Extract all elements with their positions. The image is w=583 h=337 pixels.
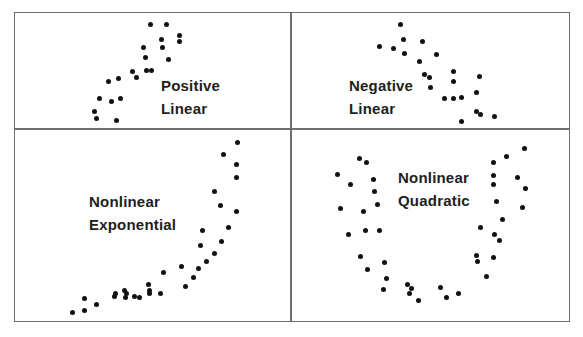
data-point bbox=[338, 206, 343, 211]
data-point bbox=[357, 156, 362, 161]
data-point bbox=[515, 175, 520, 180]
data-point bbox=[365, 267, 370, 272]
data-point bbox=[497, 238, 502, 243]
label-positive-linear: Positive Linear bbox=[161, 74, 220, 120]
label-line-2: Quadratic bbox=[398, 189, 470, 212]
data-point bbox=[346, 232, 351, 237]
data-point bbox=[371, 177, 376, 182]
label-line-1: Negative bbox=[349, 74, 413, 97]
data-point bbox=[456, 291, 461, 296]
data-point bbox=[348, 182, 353, 187]
data-point bbox=[475, 259, 480, 264]
label-negative-linear: Negative Linear bbox=[349, 74, 413, 120]
label-line-1: Nonlinear bbox=[398, 166, 470, 189]
data-point bbox=[361, 209, 366, 214]
label-line-2: Linear bbox=[349, 97, 413, 120]
label-nonlinear-exponential: Nonlinear Exponential bbox=[89, 190, 176, 236]
data-point bbox=[504, 154, 509, 159]
data-point bbox=[384, 276, 389, 281]
data-point bbox=[382, 260, 387, 265]
data-point bbox=[491, 160, 496, 165]
data-point bbox=[372, 189, 377, 194]
data-point bbox=[363, 228, 368, 233]
data-point bbox=[491, 182, 496, 187]
data-point bbox=[520, 205, 525, 210]
data-point bbox=[522, 146, 527, 151]
data-point bbox=[491, 255, 496, 260]
label-line-1: Positive bbox=[161, 74, 220, 97]
data-point bbox=[438, 285, 443, 290]
label-nonlinear-quadratic: Nonlinear Quadratic bbox=[398, 166, 470, 212]
label-line-2: Linear bbox=[161, 97, 220, 120]
data-point bbox=[500, 217, 505, 222]
data-point bbox=[494, 199, 499, 204]
data-point bbox=[358, 254, 363, 259]
data-point bbox=[335, 172, 340, 177]
data-point bbox=[407, 291, 412, 296]
data-point bbox=[491, 173, 496, 178]
scatter-nonlinear-quadratic bbox=[0, 0, 583, 337]
data-point bbox=[444, 295, 449, 300]
data-point bbox=[364, 160, 369, 165]
data-point bbox=[492, 232, 497, 237]
data-point bbox=[409, 286, 414, 291]
data-point bbox=[381, 287, 386, 292]
label-line-2: Exponential bbox=[89, 213, 176, 236]
data-point bbox=[416, 298, 421, 303]
label-line-1: Nonlinear bbox=[89, 190, 176, 213]
data-point bbox=[375, 202, 380, 207]
data-point bbox=[377, 228, 382, 233]
data-point bbox=[523, 186, 528, 191]
data-point bbox=[478, 225, 483, 230]
data-point bbox=[474, 253, 479, 258]
data-point bbox=[484, 274, 489, 279]
